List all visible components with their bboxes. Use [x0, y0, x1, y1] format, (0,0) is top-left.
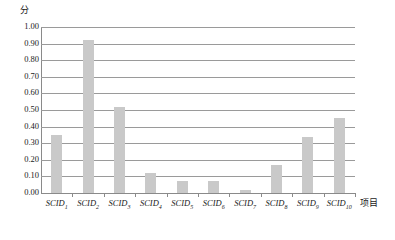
x-axis-tick	[167, 193, 168, 197]
x-axis-tick	[229, 193, 230, 197]
x-axis-tick	[72, 193, 73, 197]
bar	[302, 137, 313, 193]
gridline	[41, 27, 355, 28]
y-axis-tick-label: 0.00	[3, 188, 39, 197]
y-axis-tick-label: 0.40	[3, 122, 39, 131]
bar	[240, 190, 251, 193]
bar	[177, 181, 188, 193]
bar	[51, 135, 62, 193]
x-axis-tick	[324, 193, 325, 197]
y-axis-tick-label: 0.10	[3, 171, 39, 180]
y-axis-tick-label: 0.60	[3, 88, 39, 97]
y-axis-tick-label: 0.30	[3, 138, 39, 147]
bar	[208, 181, 219, 193]
x-axis-tick	[104, 193, 105, 197]
y-axis-tick-label: 0.90	[3, 39, 39, 48]
x-axis-tick	[135, 193, 136, 197]
y-axis-tick-label: 0.50	[3, 105, 39, 114]
x-axis-unit-label: 项目	[360, 198, 378, 209]
bar	[145, 173, 156, 193]
bar-chart: 分 1.000.900.800.700.600.500.400.300.200.…	[0, 0, 395, 240]
y-axis-tick-label: 1.00	[3, 22, 39, 31]
x-axis-tick	[292, 193, 293, 197]
bar	[271, 165, 282, 193]
x-axis-tick	[261, 193, 262, 197]
bar	[83, 40, 94, 193]
y-axis-tick-label: 0.70	[3, 72, 39, 81]
x-axis-tick-label: SCID10	[316, 198, 362, 213]
plot-area	[41, 27, 355, 193]
y-axis-tick-label: 0.80	[3, 55, 39, 64]
x-axis-tick	[355, 193, 356, 197]
bar	[334, 118, 345, 193]
x-axis-tick-labels: SCID1SCID2SCID3SCID4SCID5SCID6SCID7SCID8…	[41, 198, 355, 214]
x-axis-tick	[198, 193, 199, 197]
bar	[114, 107, 125, 193]
y-axis-tick-label: 0.20	[3, 155, 39, 164]
